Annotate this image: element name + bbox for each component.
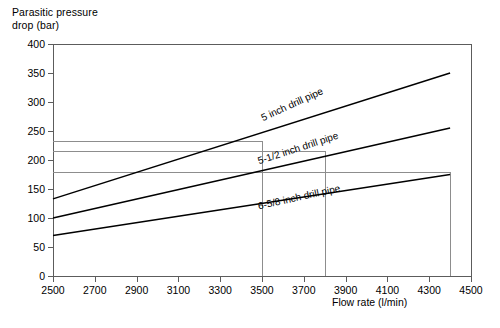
x-tick-mark xyxy=(220,277,221,282)
x-tick-label: 3900 xyxy=(334,284,357,296)
x-tick-label: 2700 xyxy=(83,284,106,296)
plot-area: 050100150200250300350400 250027002900310… xyxy=(53,44,472,277)
x-tick-mark xyxy=(137,277,138,282)
y-axis-title: Parasitic pressure drop (bar) xyxy=(12,6,98,32)
x-tick-mark xyxy=(387,277,388,282)
series-line xyxy=(53,73,450,199)
x-tick-mark xyxy=(304,277,305,282)
x-tick-label: 4500 xyxy=(459,284,482,296)
y-tick-label: 0 xyxy=(39,270,45,282)
x-tick-mark xyxy=(262,277,263,282)
x-tick-label: 2900 xyxy=(125,284,148,296)
y-tick-label: 150 xyxy=(27,183,45,195)
y-tick-label: 50 xyxy=(33,241,45,253)
y-tick-label: 200 xyxy=(27,154,45,166)
x-tick-label: 4300 xyxy=(418,284,441,296)
x-tick-label: 4100 xyxy=(376,284,399,296)
x-tick-mark xyxy=(471,277,472,282)
x-tick-mark xyxy=(346,277,347,282)
x-tick-label: 3500 xyxy=(250,284,273,296)
x-tick-mark xyxy=(429,277,430,282)
x-tick-mark xyxy=(53,277,54,282)
x-tick-label: 3700 xyxy=(292,284,315,296)
x-tick-mark xyxy=(178,277,179,282)
x-tick-mark xyxy=(95,277,96,282)
y-tick-label: 350 xyxy=(27,67,45,79)
y-tick-label: 400 xyxy=(27,38,45,50)
y-tick-label: 250 xyxy=(27,125,45,137)
chart-container: Parasitic pressure drop (bar) 0501001502… xyxy=(0,0,500,328)
x-axis-title: Flow rate (l/min) xyxy=(332,296,407,308)
x-tick-label: 3300 xyxy=(209,284,232,296)
y-tick-label: 100 xyxy=(27,212,45,224)
y-tick-label: 300 xyxy=(27,96,45,108)
x-tick-label: 2500 xyxy=(41,284,64,296)
x-tick-label: 3100 xyxy=(167,284,190,296)
